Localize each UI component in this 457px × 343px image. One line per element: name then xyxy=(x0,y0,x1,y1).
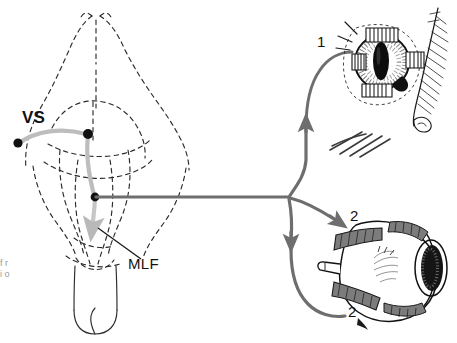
whisker-hatch xyxy=(330,132,390,157)
efferent-pathway xyxy=(96,128,345,317)
cropped-edge-text: f r i o xyxy=(0,258,10,280)
vs-left-node xyxy=(13,138,22,147)
pale-tract-descending xyxy=(92,200,95,230)
eye-frontal xyxy=(336,22,424,105)
axon-to-muscle-1 xyxy=(306,52,352,128)
label-muscle-2-lower: 2 xyxy=(348,303,356,320)
label-muscle-1: 1 xyxy=(317,33,325,50)
muscle-1-medial xyxy=(352,54,366,70)
eye-lateral xyxy=(318,221,447,330)
label-vs: VS xyxy=(22,108,45,128)
muscle-inferior xyxy=(362,84,392,97)
vs-right-node xyxy=(83,129,93,139)
figure-canvas: VS MLF 1 2 2 f r i o xyxy=(0,0,457,343)
pale-tract xyxy=(19,131,94,195)
muscle-superior xyxy=(366,28,398,42)
spinal-cord xyxy=(74,266,117,334)
brain-outline xyxy=(26,13,189,269)
label-muscle-2-upper: 2 xyxy=(350,207,358,224)
snout-fur xyxy=(413,8,448,132)
label-mlf: MLF xyxy=(128,255,159,272)
muscle-lateral xyxy=(406,52,424,68)
diagram-svg xyxy=(0,0,457,343)
